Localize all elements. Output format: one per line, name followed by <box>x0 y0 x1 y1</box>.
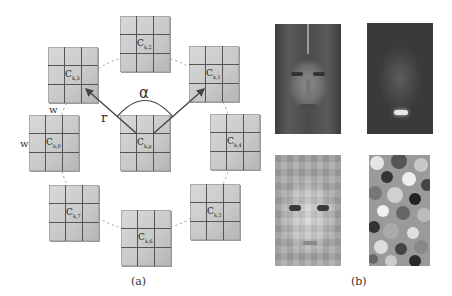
panel-a-diagram: Ck,2 Ck,3 Ck,1 Ck,0 Ck,p Ck,4 Ck,7 Ck,6 … <box>0 0 260 296</box>
mottled-pattern <box>369 155 430 266</box>
face-original-image <box>275 24 341 134</box>
random-patch-map-image <box>369 155 430 266</box>
caption-b: (b) <box>351 275 367 288</box>
face-filtered-dark-image <box>367 23 433 134</box>
caption-a: (a) <box>131 275 146 288</box>
angle-alpha-label: α <box>139 84 149 102</box>
width-label-top: w <box>49 104 58 115</box>
arrow-to-k3 <box>86 89 136 133</box>
radius-label: r <box>101 110 107 125</box>
width-label-left: w <box>20 138 29 149</box>
radius-arrows <box>0 0 260 296</box>
face-blocky-texture-image <box>275 155 341 266</box>
arrow-to-k1 <box>154 89 204 133</box>
